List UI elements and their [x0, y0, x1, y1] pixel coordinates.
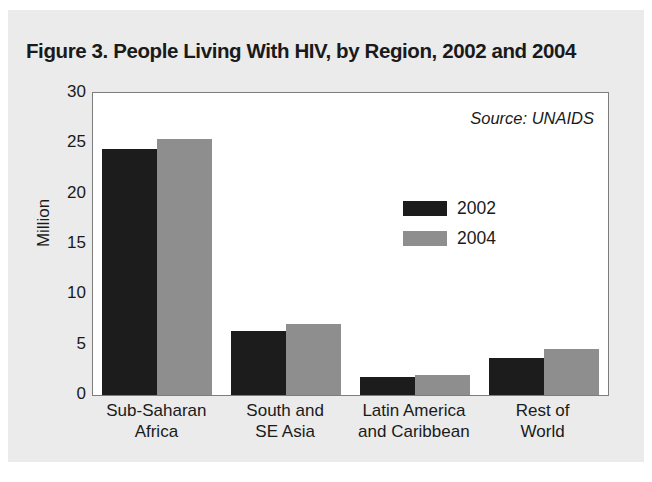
x-axis-category-label-line: World — [443, 421, 643, 442]
y-axis-tick-label: 25 — [46, 133, 86, 150]
chart-legend: 20022004 — [403, 197, 533, 257]
legend-item-2004: 2004 — [403, 227, 533, 253]
legend-label-2002: 2002 — [457, 197, 496, 219]
figure-container: Figure 3. People Living With HIV, by Reg… — [0, 0, 652, 482]
bar-2004-4 — [544, 349, 599, 395]
y-axis-tick-label: 30 — [46, 83, 86, 100]
bar-2002-4 — [489, 358, 544, 395]
legend-label-2004: 2004 — [457, 227, 496, 249]
bar-2004-2 — [286, 324, 341, 395]
page-title: Figure 3. People Living With HIV, by Reg… — [26, 36, 626, 66]
legend-swatch-2004 — [403, 231, 447, 246]
y-axis-tick-label: 20 — [46, 184, 86, 201]
legend-swatch-2002 — [403, 201, 447, 216]
bar-2002-3 — [360, 377, 415, 395]
x-axis-category-label: Rest ofWorld — [443, 400, 643, 442]
source-annotation: Source: UNAIDS — [470, 109, 594, 128]
bar-2002-1 — [102, 149, 157, 395]
bar-2004-1 — [157, 139, 212, 395]
x-axis-category-label-line: Rest of — [443, 400, 643, 421]
y-axis-tick-label: 10 — [46, 284, 86, 301]
legend-item-2002: 2002 — [403, 197, 533, 223]
y-axis-tick-label: 5 — [46, 335, 86, 352]
bar-2002-2 — [231, 331, 286, 395]
y-axis-tick-labels: 051015202530 — [38, 92, 86, 394]
plot-frame: Source: UNAIDS 20022004 — [92, 92, 609, 396]
y-axis-tick-label: 15 — [46, 234, 86, 251]
bar-2004-3 — [415, 375, 470, 395]
